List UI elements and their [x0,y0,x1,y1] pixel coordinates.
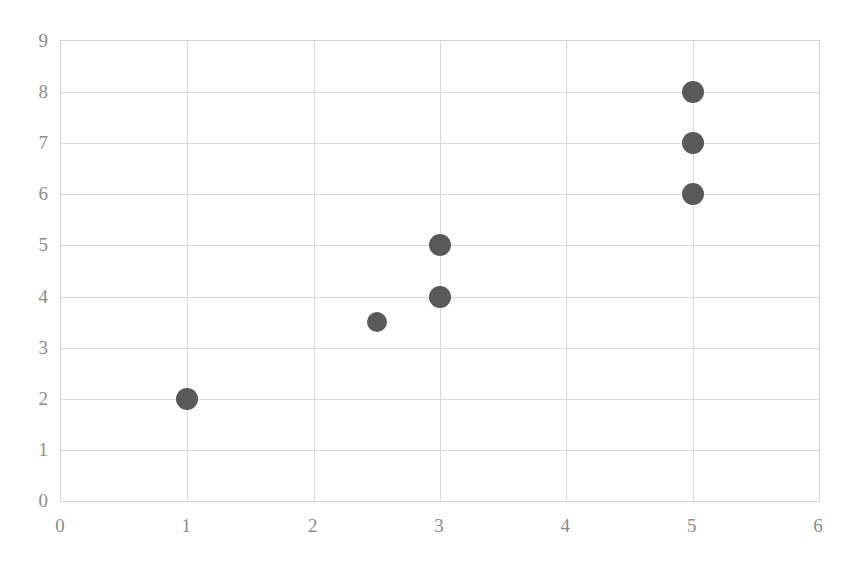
data-point [367,312,387,332]
x-axis-tick-label: 2 [283,516,343,535]
x-axis-tick-label: 0 [30,516,90,535]
y-axis-tick-label: 4 [8,286,48,305]
gridline-vertical [566,41,567,501]
gridline-vertical [314,41,315,501]
y-axis-tick-label: 3 [8,337,48,356]
x-axis-tick-label: 6 [788,516,848,535]
x-axis-tick-label: 1 [156,516,216,535]
gridline-vertical [693,41,694,501]
data-point [682,183,704,205]
data-point [429,234,451,256]
y-axis-tick-label: 8 [8,82,48,101]
y-axis-tick-label: 0 [8,491,48,510]
x-axis-tick-label: 4 [535,516,595,535]
x-axis-tick-labels: 0123456 [60,516,820,544]
y-axis-tick-label: 9 [8,31,48,50]
y-axis-tick-label: 1 [8,439,48,458]
y-axis-tick-labels: 0123456789 [0,40,48,502]
data-point [429,286,451,308]
gridline-vertical [187,41,188,501]
x-axis-tick-label: 5 [662,516,722,535]
y-axis-tick-label: 5 [8,235,48,254]
gridline-vertical [440,41,441,501]
data-point [682,81,704,103]
y-axis-tick-label: 7 [8,133,48,152]
data-point [176,388,198,410]
data-point [682,132,704,154]
y-axis-tick-label: 6 [8,184,48,203]
plot-area [60,40,820,502]
scatter-chart: 0123456789 0123456 [0,0,855,564]
x-axis-tick-label: 3 [409,516,469,535]
y-axis-tick-label: 2 [8,388,48,407]
